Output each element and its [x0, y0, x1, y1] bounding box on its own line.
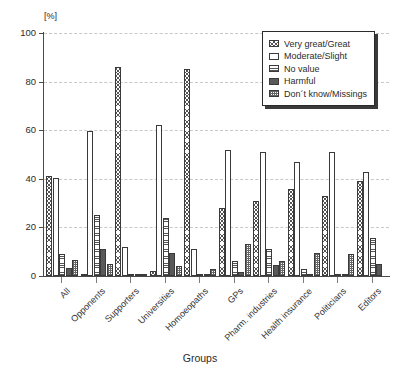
bar: [253, 201, 259, 276]
bar: [94, 215, 100, 276]
x-category-label: Editors: [356, 286, 383, 313]
legend-swatch-icon: [269, 53, 279, 60]
bar: [288, 189, 294, 276]
bar: [210, 269, 216, 276]
bar: [245, 244, 251, 276]
x-tick-mark: [268, 277, 269, 283]
bar: [135, 274, 141, 276]
gridline: [44, 130, 389, 131]
legend-item: Moderate/Slight: [269, 50, 367, 62]
bar: [322, 196, 328, 276]
bar: [342, 274, 348, 276]
y-tick-mark: [39, 276, 44, 277]
bar: [46, 176, 52, 276]
bar: [204, 274, 210, 276]
y-axis-unit-label: [%]: [44, 11, 57, 21]
bar: [238, 272, 244, 276]
x-category-label: Opponents: [69, 286, 107, 324]
chart-legend: Very great/GreatModerate/SlightNo valueH…: [262, 31, 375, 106]
bar: [169, 253, 175, 276]
legend-item-label: No value: [284, 64, 320, 74]
legend-item-label: Harmful: [284, 76, 316, 86]
bar: [335, 274, 341, 276]
legend-item: Harmful: [269, 75, 367, 87]
y-tick-label: 60: [2, 124, 36, 135]
x-tick-mark: [165, 277, 166, 283]
bar: [191, 249, 197, 276]
bar: [370, 238, 376, 276]
x-category-label: Politicians: [313, 286, 349, 322]
y-tick-label: 0: [2, 270, 36, 281]
bar: [197, 274, 203, 276]
bar: [363, 172, 369, 276]
bar: [232, 261, 238, 276]
x-category-label: All: [58, 286, 72, 300]
bar: [150, 271, 156, 276]
y-tick-label: 40: [2, 173, 36, 184]
legend-swatch-icon: [269, 65, 279, 72]
bar: [279, 261, 285, 276]
bar: [156, 125, 162, 276]
x-tick-mark: [234, 277, 235, 283]
bar: [301, 269, 307, 276]
x-tick-mark: [303, 277, 304, 283]
x-category-label: GPs: [225, 286, 244, 305]
legend-swatch-icon: [269, 40, 279, 47]
bar: [266, 249, 272, 276]
legend-item-label: Moderate/Slight: [284, 51, 347, 61]
x-tick-mark: [96, 277, 97, 283]
bar: [100, 249, 106, 276]
legend-item-label: Don´t know/Missings: [284, 89, 367, 99]
x-tick-mark: [199, 277, 200, 283]
legend-item: Don´t know/Missings: [269, 88, 367, 100]
legend-item-label: Very great/Great: [284, 39, 350, 49]
x-tick-mark: [130, 277, 131, 283]
x-axis-title: Groups: [0, 352, 400, 364]
bar: [59, 254, 65, 276]
x-tick-mark: [337, 277, 338, 283]
bar: [348, 254, 354, 276]
bar: [87, 131, 93, 276]
bar: [307, 274, 313, 276]
bar: [81, 274, 87, 276]
gridline: [44, 179, 389, 180]
x-tick-mark: [372, 277, 373, 283]
bar: [219, 208, 225, 276]
bar: [273, 265, 279, 276]
bar: [53, 178, 59, 276]
legend-item: No value: [269, 63, 367, 75]
bar: [72, 260, 78, 276]
bar: [329, 152, 335, 276]
legend-swatch-icon: [269, 90, 279, 97]
bar: [115, 67, 121, 276]
bar: [376, 264, 382, 276]
bar: [357, 181, 363, 276]
y-tick-label: 20: [2, 221, 36, 232]
bar: [66, 268, 72, 277]
y-tick-label: 100: [2, 27, 36, 38]
legend-swatch-icon: [269, 78, 279, 85]
x-tick-mark: [61, 277, 62, 283]
bar: [128, 274, 134, 276]
bar: [107, 264, 113, 276]
bar: [260, 152, 266, 276]
bar: [141, 274, 147, 276]
bar: [163, 218, 169, 276]
y-tick-label: 80: [2, 76, 36, 87]
bar: [176, 266, 182, 276]
bar: [184, 69, 190, 276]
bar: [314, 253, 320, 276]
bar: [294, 162, 300, 276]
legend-item: Very great/Great: [269, 38, 367, 50]
bar: [122, 247, 128, 276]
bar: [225, 150, 231, 276]
bar-chart: [%] 020406080100 AllOpponentsSupportersU…: [0, 0, 400, 378]
